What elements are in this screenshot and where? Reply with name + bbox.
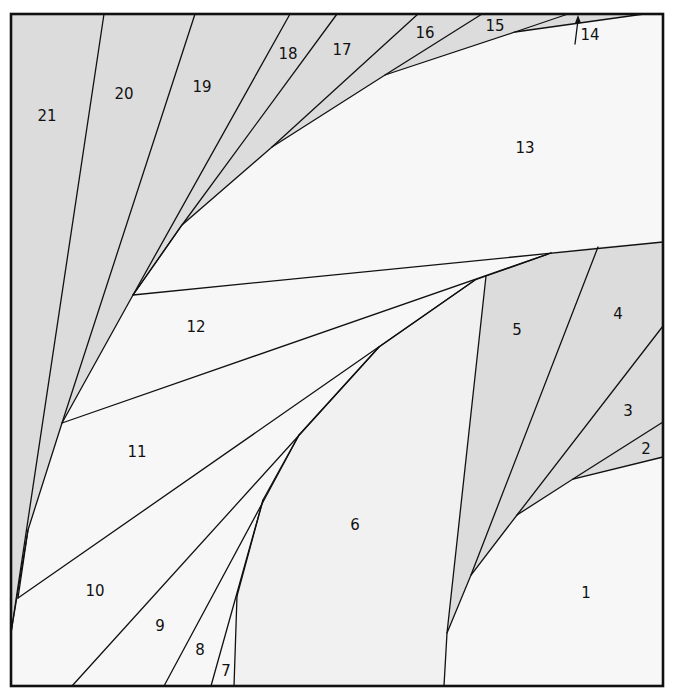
- piece-label-14: 14: [580, 26, 599, 44]
- piece-label-12: 12: [186, 318, 205, 336]
- piece-label-3: 3: [623, 402, 633, 420]
- piece-label-7: 7: [221, 662, 231, 680]
- piece-label-13: 13: [515, 139, 534, 157]
- piece-label-2: 2: [641, 440, 651, 458]
- piece-label-21: 21: [37, 107, 56, 125]
- piece-label-4: 4: [613, 305, 623, 323]
- piece-label-5: 5: [512, 321, 522, 339]
- piece-label-8: 8: [195, 641, 205, 659]
- piece-label-10: 10: [85, 582, 104, 600]
- piece-label-20: 20: [114, 85, 133, 103]
- piece-label-1: 1: [581, 584, 591, 602]
- piece-label-15: 15: [485, 17, 504, 35]
- piece-label-19: 19: [192, 78, 211, 96]
- piece-label-17: 17: [332, 41, 351, 59]
- piece-label-11: 11: [127, 443, 146, 461]
- piece-label-6: 6: [350, 516, 360, 534]
- piece-label-9: 9: [155, 617, 165, 635]
- piece-label-16: 16: [415, 24, 434, 42]
- piece-label-18: 18: [278, 45, 297, 63]
